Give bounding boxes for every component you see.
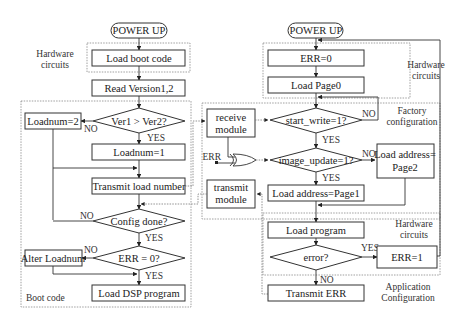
load-dsp-program-label: Load DSP program — [98, 288, 179, 299]
err-set-label: ERR=1 — [391, 252, 423, 263]
transmit-err-label: Transmit ERR — [286, 288, 347, 299]
left-hardware-label-2: circuits — [41, 60, 69, 70]
right-flowchart: Hardware circuits Factory configuration … — [141, 23, 445, 303]
right-power-up-label: POWER UP — [290, 25, 343, 36]
err-input-label: ERR — [203, 152, 222, 162]
left-hardware-label-1: Hardware — [36, 49, 73, 59]
read-version-label: Read Version1,2 — [104, 83, 173, 94]
start-write-no-label: NO — [362, 109, 376, 119]
factory-label-1: Factory — [397, 106, 426, 116]
start-write-yes-label: YES — [322, 135, 340, 145]
err-init-label: ERR=0 — [300, 53, 332, 64]
load-page2-label-2: Page2 — [392, 162, 418, 173]
load-page2-label-1: Load address= — [374, 149, 436, 160]
error-yes-label: YES — [361, 243, 379, 253]
error-no-label: NO — [320, 275, 334, 285]
image-update-label: image_update=1? — [279, 155, 354, 166]
transmit-module-label-1: transmit — [214, 182, 248, 193]
ver-yes-label: YES — [147, 133, 165, 143]
config-no-label: NO — [80, 211, 94, 221]
right-hardware2-label-2: circuits — [400, 230, 428, 240]
receive-module-label-1: receive — [216, 112, 247, 123]
right-hardware-label-2: circuits — [412, 71, 440, 81]
flowchart-diagram: Hardware circuits Boot code POWER UP Loa… — [0, 0, 461, 319]
load-program-label: Load program — [286, 225, 346, 236]
receive-module-label-2: module — [215, 124, 247, 135]
config-done-label: Config done? — [111, 216, 168, 227]
right-hardware2-label-1: Hardware — [395, 219, 432, 229]
transmit-module-label-2: module — [215, 194, 247, 205]
loadnum2-label: Loadnum=2 — [27, 116, 78, 127]
left-flowchart: Hardware circuits Boot code POWER UP Loa… — [21, 23, 191, 307]
loadnum1-label: Loadnum=1 — [113, 147, 164, 158]
or-gate — [215, 137, 268, 166]
config-yes-label: YES — [145, 233, 163, 243]
start-write-label: start_write=1? — [286, 115, 347, 126]
load-page1-label: Load address=Page1 — [272, 188, 359, 199]
err-zero-label: ERR = 0? — [118, 253, 160, 264]
application-label-1: Application — [386, 282, 431, 292]
err-no-label: NO — [84, 245, 98, 255]
load-page0-label: Load Page0 — [291, 80, 341, 91]
ver-compare-label: Ver1 > Ver2? — [111, 116, 167, 127]
ver-no-label: NO — [84, 124, 98, 134]
load-boot-code-label: Load boot code — [106, 53, 172, 64]
left-power-up-label: POWER UP — [113, 25, 166, 36]
right-hardware-label-1: Hardware — [407, 60, 444, 70]
transmit-load-number-label: Transmit load number — [93, 181, 186, 192]
err-yes-label: YES — [145, 271, 163, 281]
image-update-yes-label: YES — [322, 173, 340, 183]
boot-code-label: Boot code — [26, 293, 65, 303]
alter-loadnum-label: Alter Loadnum — [21, 253, 85, 264]
error-label: error? — [303, 252, 328, 263]
application-label-2: Configuration — [381, 293, 435, 303]
factory-label-2: configuration — [386, 117, 437, 127]
